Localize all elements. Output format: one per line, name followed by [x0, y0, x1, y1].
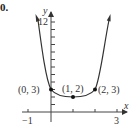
y-tick-label-12: 12 — [38, 16, 48, 27]
x-tick-label-3: 3 — [114, 115, 119, 126]
point-2-3 — [93, 88, 97, 92]
point-label-2-3: (2, 3) — [98, 84, 120, 96]
point-0-3 — [49, 88, 53, 92]
point-label-1-2: (1, 2) — [62, 83, 84, 95]
chart: −1 3 12 y x (0, 3) (1, 2) (2, 3) — [0, 0, 134, 132]
y-axis-label: y — [42, 5, 48, 16]
curve-arrow-right — [107, 14, 111, 22]
point-label-0-3: (0, 3) — [18, 84, 40, 96]
point-1-2 — [71, 95, 75, 99]
x-tick-label-neg1: −1 — [22, 115, 33, 126]
x-axis-label: x — [123, 100, 129, 111]
